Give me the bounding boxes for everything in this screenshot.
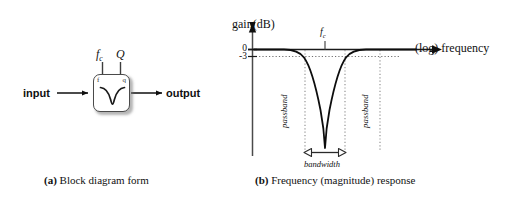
notch-response-glyph: [94, 75, 131, 113]
panel-block-diagram: f q fc Q input output (a) Block diagram …: [0, 0, 230, 197]
param-label-q: Q: [116, 48, 125, 60]
caption-panel-a: (a) Block diagram form: [44, 174, 149, 186]
bandwidth-label: bandwidth: [304, 160, 340, 169]
center-frequency-label: fc: [320, 27, 326, 40]
figure-notch-filter: f q fc Q input output (a) Block diagram …: [0, 0, 508, 197]
x-axis-title: (log) frequency: [415, 42, 489, 54]
param-label-fc: fc: [96, 48, 103, 63]
output-label: output: [166, 88, 200, 99]
caption-tag-b: (b): [255, 174, 268, 186]
caption-tag-a: (a): [44, 174, 57, 186]
caption-panel-b: (b) Frequency (magnitude) response: [255, 174, 415, 186]
bandwidth-arrow: [304, 149, 346, 157]
panel-frequency-response: gain(dB) (log) frequency 0 -3 fc passban…: [230, 0, 508, 197]
passband-label-left: passband: [280, 94, 289, 128]
notch-filter-block[interactable]: f q: [93, 74, 130, 112]
y-axis-title: gain(dB): [232, 18, 275, 30]
y-tick-label-minus3: -3: [230, 52, 247, 62]
caption-text-a: Block diagram form: [60, 174, 149, 186]
caption-text-b: Frequency (magnitude) response: [271, 174, 415, 186]
passband-label-right: passband: [361, 94, 370, 128]
input-label: input: [23, 88, 50, 99]
